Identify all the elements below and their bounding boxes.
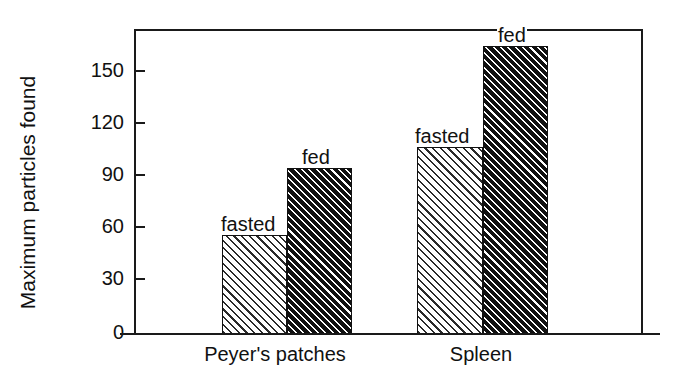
y-tick-label-150: 150 — [66, 60, 124, 80]
bar-spleen-fed — [483, 46, 548, 334]
y-tick-label-90: 90 — [66, 164, 124, 184]
y-tick-label-120: 120 — [66, 112, 124, 132]
y-tick-mark-90 — [135, 174, 145, 176]
x-category-label-spleen: Spleen — [401, 344, 561, 364]
bar-annotation-peyers-fed: fed — [301, 147, 331, 167]
y-tick-label-30: 30 — [66, 268, 124, 288]
y-tick-mark-150 — [135, 70, 145, 72]
x-axis-baseline — [120, 333, 660, 335]
y-tick-mark-120 — [135, 122, 145, 124]
y-tick-mark-30 — [135, 278, 145, 280]
bar-spleen-fasted — [417, 147, 483, 334]
y-axis-title: Maximum particles found — [0, 0, 56, 385]
y-tick-label-0: 0 — [66, 322, 124, 342]
chart-figure: Maximum particles found 150 120 90 60 30… — [0, 0, 675, 385]
plot-area: fasted fed fasted fed — [134, 29, 643, 334]
x-category-label-peyers-patches: Peyer's patches — [175, 344, 375, 364]
y-axis-tick-labels: 150 120 90 60 30 0 — [60, 0, 124, 385]
bar-peyers-patches-fed — [287, 168, 352, 334]
bar-annotation-spleen-fasted: fasted — [414, 126, 470, 146]
y-tick-mark-60 — [135, 226, 145, 228]
bar-annotation-spleen-fed: fed — [497, 25, 527, 45]
y-tick-label-60: 60 — [66, 216, 124, 236]
bar-peyers-patches-fasted — [222, 235, 287, 334]
bar-annotation-peyers-fasted: fasted — [220, 214, 276, 234]
